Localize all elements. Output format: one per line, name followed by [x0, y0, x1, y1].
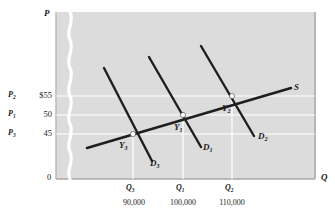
supply-demand-figure: P Q 0 P2 P1 P3 $55 50 45 Q3 Q1 Q2 90,000…: [0, 0, 335, 213]
equilibrium-point-y1[interactable]: [180, 112, 185, 117]
q3-subscript: 3: [132, 187, 135, 193]
point-label-y3: Y3: [119, 141, 128, 150]
x-axis-label: Q: [321, 173, 328, 182]
curve-label-s: S: [294, 83, 299, 92]
y-axis-label: P: [44, 9, 50, 18]
price-tick-symbol-p3: P3: [8, 129, 16, 137]
price-tick-symbol-p2: P2: [8, 91, 16, 99]
d3-subscript: 3: [157, 163, 160, 169]
q2-subscript: 2: [231, 187, 234, 193]
curve-label-d1: D1: [203, 143, 213, 152]
equilibrium-point-y3[interactable]: [130, 131, 135, 136]
origin-label: 0: [47, 173, 51, 182]
curve-label-d2: D2: [258, 132, 268, 141]
quantity-tick-symbol-q3: Q3: [126, 184, 135, 192]
q1-symbol-text: Q: [176, 183, 182, 192]
d1-symbol-text: D: [203, 142, 210, 152]
curve-label-d3: D3: [150, 159, 160, 168]
y2-subscript: 2: [228, 108, 231, 114]
q3-symbol-text: Q: [126, 183, 132, 192]
y1-symbol-text: Y: [174, 122, 180, 132]
y3-subscript: 3: [125, 145, 128, 151]
y1-subscript: 1: [180, 127, 183, 133]
y3-symbol-text: Y: [119, 140, 125, 150]
quantity-value-q1: 100,000: [159, 199, 207, 207]
p2-subscript: 2: [13, 94, 16, 100]
quantity-tick-symbol-q2: Q2: [225, 184, 234, 192]
p1-subscript: 1: [13, 113, 16, 119]
price-tick-value-p3: 45: [22, 129, 52, 138]
q2-symbol-text: Q: [225, 183, 231, 192]
price-tick-symbol-p1: P1: [8, 110, 16, 118]
d3-symbol-text: D: [150, 158, 157, 168]
point-label-y1: Y1: [174, 123, 183, 132]
price-tick-value-p2: $55: [22, 91, 52, 100]
d2-subscript: 2: [265, 136, 268, 142]
d2-symbol-text: D: [258, 131, 265, 141]
quantity-value-q3: 90,000: [110, 199, 158, 207]
point-label-y2: Y2: [222, 104, 231, 113]
d1-subscript: 1: [210, 147, 213, 153]
quantity-value-q2: 110,000: [208, 199, 256, 207]
y2-symbol-text: Y: [222, 103, 228, 113]
p3-subscript: 3: [13, 132, 16, 138]
q1-subscript: 1: [182, 187, 185, 193]
price-tick-value-p1: 50: [22, 110, 52, 119]
quantity-tick-symbol-q1: Q1: [176, 184, 185, 192]
equilibrium-point-y2[interactable]: [229, 93, 234, 98]
